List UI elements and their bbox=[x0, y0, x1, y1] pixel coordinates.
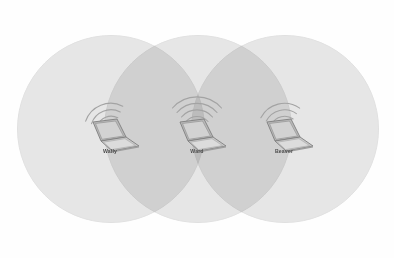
node-label-beaver: Beaver bbox=[239, 148, 329, 154]
node-beaver: Beaver bbox=[239, 88, 329, 168]
node-label-wally: Wally bbox=[65, 148, 155, 154]
node-wally: Wally bbox=[65, 88, 155, 168]
node-label-ward: Ward bbox=[152, 148, 242, 154]
wireless-coverage-diagram: Wally Ward bbox=[0, 0, 394, 258]
node-ward: Ward bbox=[152, 88, 242, 168]
